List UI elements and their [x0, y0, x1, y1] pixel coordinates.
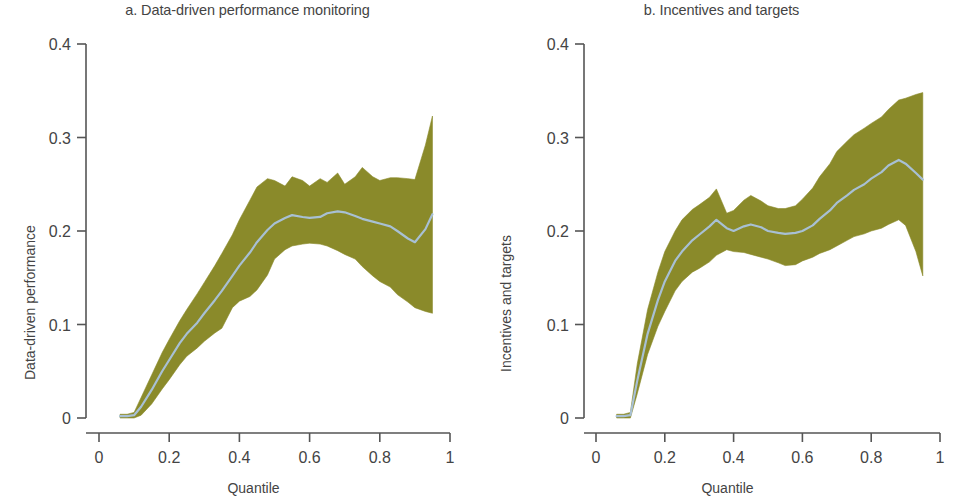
panel-a-plot-area: 00.10.20.30.400.20.40.60.81	[0, 0, 477, 497]
y-tick-label: 0.3	[547, 130, 569, 147]
chart-panel-b: b. Incentives and targets Incentives and…	[478, 0, 955, 497]
x-tick-label: 0	[592, 449, 601, 466]
confidence-band	[617, 93, 923, 418]
y-tick-label: 0.1	[547, 317, 569, 334]
figure-container: a. Data-driven performance monitoring Da…	[0, 0, 955, 497]
x-tick-label: 1	[936, 449, 945, 466]
x-tick-label: 0.2	[654, 449, 676, 466]
confidence-band	[120, 116, 432, 418]
y-tick-label: 0.4	[49, 36, 71, 53]
y-tick-label: 0.1	[49, 317, 71, 334]
x-tick-label: 1	[446, 449, 455, 466]
x-tick-label: 0	[95, 449, 104, 466]
panel-b-plot-area: 00.10.20.30.400.20.40.60.81	[478, 0, 955, 497]
x-tick-label: 0.4	[228, 449, 250, 466]
y-tick-label: 0.2	[49, 223, 71, 240]
chart-panel-a: a. Data-driven performance monitoring Da…	[0, 0, 477, 497]
x-tick-label: 0.8	[860, 449, 882, 466]
y-tick-label: 0.3	[49, 130, 71, 147]
x-tick-label: 0.2	[158, 449, 180, 466]
y-tick-label: 0.4	[547, 36, 569, 53]
y-tick-label: 0	[62, 410, 71, 427]
y-tick-label: 0	[560, 410, 569, 427]
x-tick-label: 0.4	[722, 449, 744, 466]
x-tick-label: 0.6	[298, 449, 320, 466]
y-tick-label: 0.2	[547, 223, 569, 240]
x-tick-label: 0.8	[369, 449, 391, 466]
x-tick-label: 0.6	[791, 449, 813, 466]
